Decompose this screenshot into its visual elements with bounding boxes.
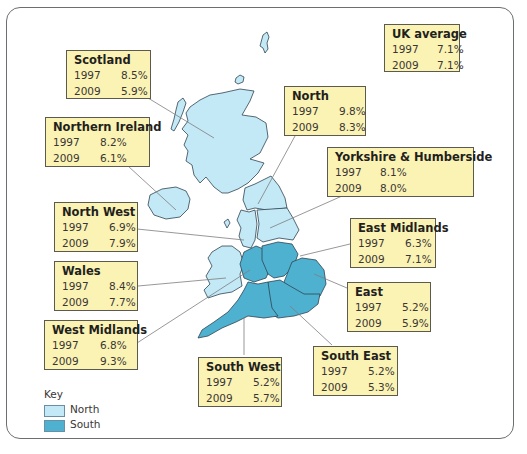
row-1997: 19978.1% xyxy=(335,165,473,181)
row-1997: 19975.2% xyxy=(321,364,397,380)
region-northern-ireland xyxy=(148,187,190,219)
row-2009: 20096.1% xyxy=(53,151,149,167)
row-2009: 20095.9% xyxy=(355,316,430,332)
north-box: North 19979.8% 20098.3% xyxy=(284,86,366,136)
row-1997: 19978.4% xyxy=(62,279,137,295)
row-1997: 19977.1% xyxy=(392,42,459,58)
orkney-islands xyxy=(235,75,244,84)
south-west-box: South West 19975.2% 20095.7% xyxy=(198,357,282,407)
east-box: East 19975.2% 20095.9% xyxy=(347,282,431,332)
uk-average-box: UK average 19977.1% 20097.1% xyxy=(384,24,460,72)
box-title: Yorkshire & Humberside xyxy=(335,150,473,165)
north-west-box: North West 19976.9% 20097.9% xyxy=(54,202,138,252)
row-2009: 20097.7% xyxy=(62,295,137,311)
row-1997: 19979.8% xyxy=(292,104,365,120)
south-east-box: South East 19975.2% 20095.3% xyxy=(313,346,398,396)
region-north-west xyxy=(237,210,257,248)
box-title: South West xyxy=(206,360,281,375)
box-title: Northern Ireland xyxy=(53,120,149,135)
west-midlands-box: West Midlands 19976.8% 20099.3% xyxy=(44,320,138,370)
row-1997: 19975.2% xyxy=(355,300,430,316)
row-1997: 19975.2% xyxy=(206,375,281,391)
box-title: North West xyxy=(62,205,137,220)
wales-box: Wales 19978.4% 20097.7% xyxy=(54,261,138,311)
row-1997: 19976.9% xyxy=(62,220,137,236)
east-midlands-box: East Midlands 19976.3% 20097.1% xyxy=(350,218,436,268)
row-2009: 20099.3% xyxy=(52,354,137,370)
box-title: East xyxy=(355,285,430,300)
box-title: Wales xyxy=(62,264,137,279)
row-2009: 20095.7% xyxy=(206,391,281,407)
isle-of-man xyxy=(224,219,230,228)
row-2009: 20098.3% xyxy=(292,120,365,136)
row-2009: 20095.9% xyxy=(74,84,150,100)
row-2009: 20097.1% xyxy=(392,58,459,74)
row-2009: 20098.0% xyxy=(335,181,473,197)
region-yorkshire-humberside xyxy=(257,208,299,242)
box-title: UK average xyxy=(392,27,459,42)
box-title: North xyxy=(292,89,365,104)
region-wales xyxy=(204,246,244,298)
box-title: West Midlands xyxy=(52,323,137,338)
yorkshire-humberside-box: Yorkshire & Humberside 19978.1% 20098.0% xyxy=(327,147,474,197)
row-2009: 20097.1% xyxy=(358,252,435,268)
row-2009: 20097.9% xyxy=(62,236,137,252)
box-title: South East xyxy=(321,349,397,364)
row-1997: 19978.5% xyxy=(74,68,150,84)
key-label-north: North xyxy=(70,403,99,415)
scotland-box: Scotland 19978.5% 20095.9% xyxy=(66,50,151,99)
region-scotland xyxy=(182,89,268,193)
box-title: Scotland xyxy=(74,53,150,68)
row-1997: 19976.3% xyxy=(358,236,435,252)
northern-ireland-box: Northern Ireland 19978.2% 20096.1% xyxy=(45,117,150,167)
key-swatch-north xyxy=(44,405,65,417)
key-label-south: South xyxy=(70,418,101,430)
row-1997: 19978.2% xyxy=(53,135,149,151)
shetland-islands xyxy=(260,32,269,53)
key-swatch-south xyxy=(44,420,65,432)
box-title: East Midlands xyxy=(358,221,435,236)
key-title: Key xyxy=(44,388,63,400)
row-2009: 20095.3% xyxy=(321,380,397,396)
row-1997: 19976.8% xyxy=(52,338,137,354)
